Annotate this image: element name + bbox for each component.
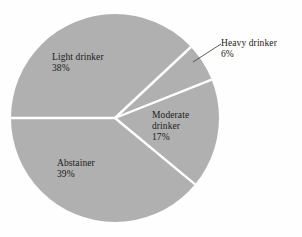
slice-label-moderate-drinker-value: 17%	[152, 132, 189, 143]
slice-label-abstainer-value: 39%	[57, 169, 95, 180]
heavy-drinker-leader-line	[193, 44, 221, 62]
slice-label-light-drinker: Light drinker 38%	[52, 52, 104, 74]
slice-label-abstainer-name: Abstainer	[57, 158, 95, 169]
slice-label-moderate-drinker: Moderate drinker 17%	[152, 110, 189, 143]
pie-chart-figure: Light drinker 38% Abstainer 39% Moderate…	[0, 0, 302, 237]
slice-label-moderate-drinker-name-line2: drinker	[152, 121, 189, 132]
slice-label-light-drinker-name: Light drinker	[52, 52, 104, 63]
slice-label-heavy-drinker-value: 6%	[221, 49, 277, 60]
slice-label-abstainer: Abstainer 39%	[57, 158, 95, 180]
slice-label-heavy-drinker: Heavy drinker 6%	[221, 38, 277, 60]
slice-label-moderate-drinker-name-line1: Moderate	[152, 110, 189, 121]
pie-chart-canvas	[0, 0, 302, 237]
slice-label-heavy-drinker-name: Heavy drinker	[221, 38, 277, 49]
slice-label-light-drinker-value: 38%	[52, 63, 104, 74]
